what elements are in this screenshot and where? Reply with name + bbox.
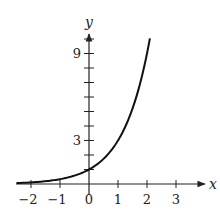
exponential-curve xyxy=(17,38,150,183)
y-tick-label: 3 xyxy=(73,133,81,148)
x-tick-label: 0 xyxy=(85,192,93,207)
x-tick-label: −2 xyxy=(18,192,37,207)
x-tick-label: 3 xyxy=(172,192,180,207)
x-axis-label: x xyxy=(209,176,217,192)
y-axis-ticks: 39 xyxy=(73,39,94,170)
x-tick-label: 1 xyxy=(114,192,122,207)
y-tick-label: 9 xyxy=(73,46,81,61)
exponential-chart: −2−10123 39 x y xyxy=(0,0,220,214)
x-tick-label: 2 xyxy=(143,192,151,207)
x-tick-label: −1 xyxy=(47,192,66,207)
y-axis-label: y xyxy=(84,14,94,30)
